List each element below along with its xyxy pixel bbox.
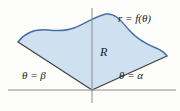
- ray-beta-label: θ = β: [22, 70, 46, 81]
- ray-alpha-label: θ = α: [119, 70, 143, 81]
- polar-region-figure: r = f(θ) R θ = β θ = α: [0, 0, 180, 111]
- curve-equation-label: r = f(θ): [118, 13, 151, 24]
- figure-canvas: [0, 0, 180, 111]
- region-label: R: [100, 46, 107, 58]
